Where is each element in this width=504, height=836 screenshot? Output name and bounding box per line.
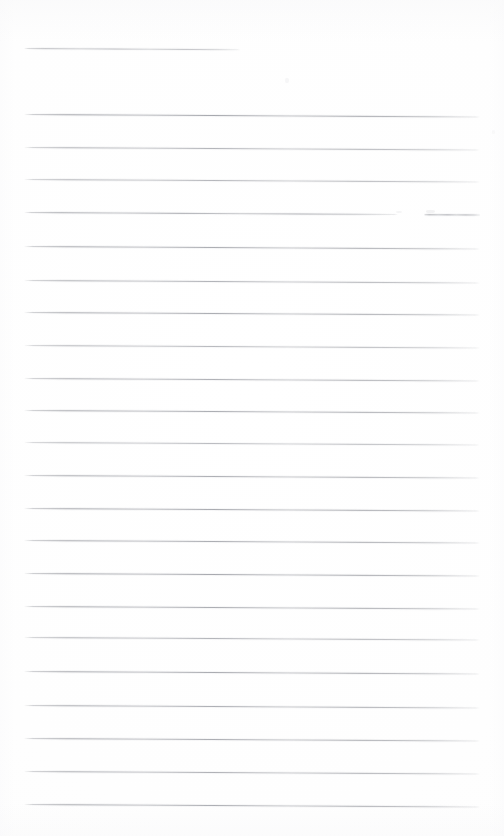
ruled-line-halo (24, 572, 480, 578)
ruled-line (24, 246, 480, 250)
paper-surface (0, 0, 504, 836)
ruled-line-segment (24, 771, 480, 775)
ruled-line-segment (24, 378, 480, 382)
scan-speck (492, 130, 495, 134)
ruled-line-segment (24, 540, 480, 544)
ruled-line-segment (24, 114, 480, 118)
ruled-line-halo (24, 737, 480, 743)
ruled-line-segment (24, 280, 480, 284)
ruled-line-halo (24, 507, 480, 513)
scan-speck (285, 78, 289, 83)
ruled-line-segment (24, 637, 480, 641)
scan-speck (396, 211, 402, 213)
ruled-line-segment (24, 442, 480, 446)
ruled-line (24, 378, 480, 382)
ruled-line-segment (24, 705, 480, 709)
ruled-line-halo (24, 474, 480, 480)
ruled-line-halo (24, 211, 398, 216)
ruled-line-halo (24, 539, 480, 545)
ruled-line-halo (24, 636, 480, 642)
ruled-line-segment (24, 179, 480, 183)
ruled-line-halo (24, 670, 480, 676)
ruled-line (24, 212, 480, 216)
ruled-line (24, 671, 480, 675)
ruled-line (24, 312, 480, 316)
ruled-line-segment (24, 48, 240, 50)
ruled-line-halo (24, 178, 480, 184)
ruled-line-segment (24, 606, 480, 610)
ruled-line-halo (24, 146, 480, 152)
ruled-line (24, 573, 480, 577)
ruled-line-segment (24, 345, 480, 349)
ruled-line-halo (24, 279, 480, 285)
ruled-line (24, 705, 480, 709)
ruled-line-halo (24, 245, 480, 251)
ruled-line-segment (24, 212, 398, 215)
ruled-line-segment (24, 246, 480, 250)
ruled-line (24, 410, 480, 414)
scan-vignette (0, 0, 504, 836)
ruled-line (24, 147, 480, 151)
ruled-line (24, 804, 480, 808)
ruled-line (24, 606, 480, 610)
ruled-line (24, 280, 480, 284)
ruled-line-segment (24, 573, 480, 577)
ruled-line (24, 738, 480, 742)
ruled-line-segment (24, 475, 480, 479)
ruled-line-halo (24, 311, 480, 317)
ruled-line-halo (24, 47, 240, 51)
ruled-line-halo (424, 213, 480, 216)
scan-speck (426, 210, 435, 213)
ruled-line (24, 345, 480, 349)
ruled-line-segment (24, 738, 480, 742)
ruled-line (24, 540, 480, 544)
ruled-line-halo (24, 605, 480, 611)
ruled-line-segment (24, 508, 480, 512)
ruled-line-halo (24, 770, 480, 776)
ruled-line-segment (24, 147, 480, 151)
ruled-line-segment (424, 214, 480, 215)
ruled-line-halo (24, 409, 480, 415)
ruled-line-halo (24, 704, 480, 710)
ruled-line-halo (24, 344, 480, 350)
ruled-line (24, 442, 480, 446)
ruled-line (24, 48, 240, 50)
ruled-line-segment (24, 804, 480, 808)
ruled-line (24, 508, 480, 512)
ruled-line-segment (24, 671, 480, 675)
ruled-line-segment (24, 312, 480, 316)
ruled-line-halo (24, 113, 480, 119)
ruled-line-halo (24, 377, 480, 383)
ruled-line-halo (24, 803, 480, 809)
ruled-line (24, 475, 480, 479)
ruled-line (24, 637, 480, 641)
ruled-line (24, 771, 480, 775)
ruled-line (24, 179, 480, 183)
ruled-line (24, 114, 480, 118)
scanned-page (0, 0, 504, 836)
ruled-line-halo (24, 441, 480, 447)
ruled-line-segment (24, 410, 480, 414)
